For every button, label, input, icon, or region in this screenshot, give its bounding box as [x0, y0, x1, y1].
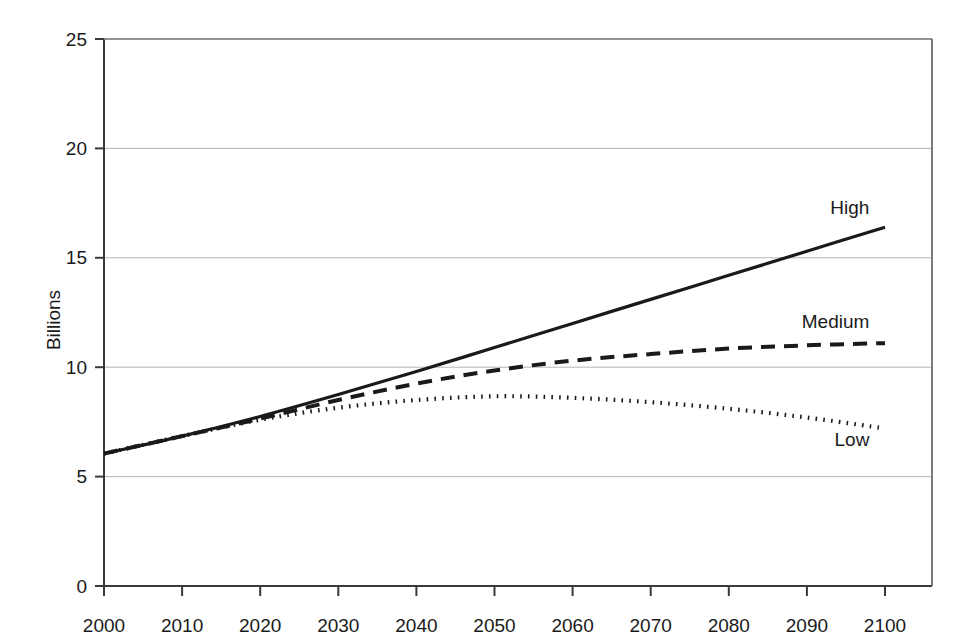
x-tick-label-2030: 2030	[317, 615, 359, 636]
x-axis-ticks: 2000201020202030204020502060207020802090…	[83, 586, 906, 636]
y-tick-label-0: 0	[76, 576, 87, 597]
x-tick-label-2050: 2050	[473, 615, 515, 636]
chart-canvas: 0510152025 20002010202020302040205020602…	[0, 0, 974, 644]
series-label-low: Low	[835, 429, 870, 450]
y-tick-label-15: 15	[66, 247, 87, 268]
x-tick-label-2020: 2020	[239, 615, 281, 636]
x-tick-label-2060: 2060	[551, 615, 593, 636]
series-label-high: High	[830, 197, 869, 218]
y-axis-ticks: 0510152025	[66, 29, 104, 597]
x-tick-label-2090: 2090	[786, 615, 828, 636]
y-tick-label-25: 25	[66, 29, 87, 50]
x-tick-label-2070: 2070	[630, 615, 672, 636]
x-tick-label-2080: 2080	[708, 615, 750, 636]
population-projection-chart: 0510152025 20002010202020302040205020602…	[0, 0, 974, 644]
x-tick-label-2100: 2100	[864, 615, 906, 636]
y-tick-label-10: 10	[66, 357, 87, 378]
series-label-medium: Medium	[802, 311, 870, 332]
x-tick-label-2000: 2000	[83, 615, 125, 636]
y-tick-label-5: 5	[76, 466, 87, 487]
y-axis-title: Billions	[43, 290, 64, 350]
y-tick-label-20: 20	[66, 138, 87, 159]
x-tick-label-2040: 2040	[395, 615, 437, 636]
x-tick-label-2010: 2010	[161, 615, 203, 636]
